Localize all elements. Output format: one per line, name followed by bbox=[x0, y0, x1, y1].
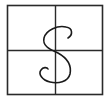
practice-grid bbox=[0, 0, 110, 99]
handwriting-practice-card: S bbox=[0, 0, 110, 99]
